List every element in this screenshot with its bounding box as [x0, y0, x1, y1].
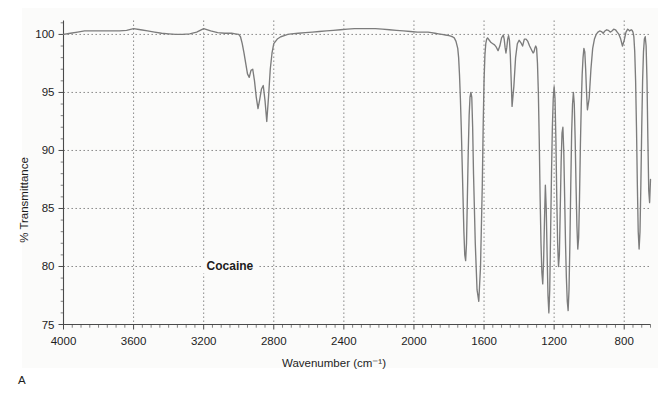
x-tick-label: 2800 — [261, 335, 287, 347]
y-tick-label: 80 — [42, 260, 55, 272]
spectrum-trace-layer — [64, 29, 651, 313]
tick-labels-layer: 7580859095100400036003200280024002000160… — [35, 28, 633, 346]
x-tick-label: 4000 — [51, 335, 77, 347]
y-axis-title-text: % Transmittance — [18, 110, 38, 290]
y-tick-label: 90 — [42, 144, 55, 156]
ir-spectrum-figure: 7580859095100400036003200280024002000160… — [0, 0, 668, 396]
axis-frame-layer — [64, 21, 651, 325]
x-tick-label: 1200 — [541, 335, 567, 347]
y-axis-title: % Transmittance — [18, 110, 38, 290]
series-annotation-label: Cocaine — [207, 259, 254, 273]
x-tick-label: 2400 — [331, 335, 357, 347]
spectrum-svg: 7580859095100400036003200280024002000160… — [0, 0, 668, 396]
y-tick-label: 85 — [42, 202, 55, 214]
y-tick-label: 95 — [42, 86, 55, 98]
panel-letter-label: A — [18, 374, 26, 386]
axis-spines — [64, 21, 651, 325]
y-tick-label: 100 — [35, 28, 54, 40]
x-tick-label: 800 — [615, 335, 634, 347]
tick-marks-layer — [59, 23, 651, 330]
x-axis-title: Wavenumber (cm⁻¹) — [0, 356, 668, 370]
spectrum-trace — [64, 29, 651, 313]
x-tick-label: 3600 — [121, 335, 147, 347]
x-tick-label: 1600 — [471, 335, 497, 347]
x-tick-label: 3200 — [191, 335, 217, 347]
x-tick-label: 2000 — [401, 335, 427, 347]
grid-layer — [64, 21, 651, 325]
y-tick-label: 75 — [42, 319, 55, 331]
